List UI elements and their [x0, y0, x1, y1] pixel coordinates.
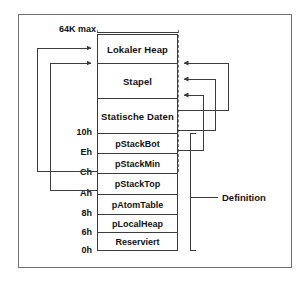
- address-text: 6h: [81, 227, 92, 237]
- address-text: Ah: [80, 188, 92, 198]
- address-label-0h: 0h: [60, 245, 92, 255]
- address-text: 0h: [81, 245, 92, 255]
- address-text: Eh: [80, 147, 92, 157]
- dashed-guide-right: [178, 30, 179, 172]
- segment-label: Statische Daten: [101, 111, 174, 122]
- address-label-ah: Ah: [60, 188, 92, 198]
- address-text: 8h: [81, 208, 92, 218]
- segment-stapel: Stapel: [97, 63, 178, 99]
- segment-pstackmin: pStackMin: [97, 153, 178, 174]
- address-label-6h: 6h: [60, 227, 92, 237]
- segment-lokaler-heap: Lokaler Heap: [97, 34, 178, 64]
- segment-plocalheap: pLocalHeap: [97, 214, 178, 233]
- segment-pstackbot: pStackBot: [97, 133, 178, 154]
- address-label-8h: 8h: [60, 208, 92, 218]
- segment-label: Stapel: [123, 76, 152, 87]
- segment-label: pStackMin: [115, 159, 160, 169]
- segment-label: pStackTop: [115, 179, 160, 189]
- segment-patomtable: pAtomTable: [97, 194, 178, 215]
- segment-label: pAtomTable: [112, 200, 163, 210]
- address-text: 10h: [76, 127, 92, 137]
- definition-label: Definition: [222, 192, 266, 203]
- segment-label: pStackBot: [115, 139, 160, 149]
- segment-reserviert: Reserviert: [97, 232, 178, 251]
- segment-label: pLocalHeap: [112, 219, 163, 229]
- address-label-eh: Eh: [60, 147, 92, 157]
- capacity-label: 64K max: [59, 24, 96, 34]
- address-label-ch: Ch: [60, 167, 92, 177]
- segment-label: Reserviert: [115, 237, 159, 247]
- segment-label: Lokaler Heap: [107, 44, 168, 55]
- segment-pstacktop: pStackTop: [97, 173, 178, 195]
- address-label-10h: 10h: [60, 127, 92, 137]
- memory-map: Lokaler Heap Stapel Statische Daten pSta…: [97, 34, 178, 250]
- address-text: Ch: [80, 167, 92, 177]
- segment-statische-daten: Statische Daten: [97, 98, 178, 134]
- diagram-canvas: 64K max Lokaler Heap Stapel Statische Da…: [0, 0, 308, 286]
